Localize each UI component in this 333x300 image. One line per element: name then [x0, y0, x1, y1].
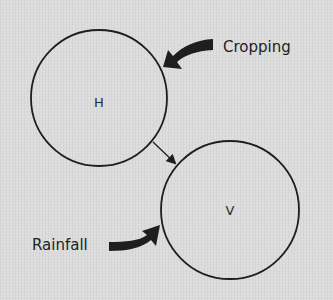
rainfall-arrow-icon: [109, 225, 160, 251]
node-h: H: [31, 30, 167, 166]
rainfall-label: Rainfall: [32, 236, 88, 254]
node-v: V: [161, 141, 299, 279]
diagram-canvas: H V Cropping Rainfall: [0, 0, 333, 300]
rainfall-influence: Rainfall: [32, 225, 160, 254]
cropping-label: Cropping: [223, 38, 291, 56]
edge-h-to-v-arrow: [153, 142, 175, 163]
node-h-label: H: [94, 95, 104, 110]
cropping-arrow-icon: [163, 39, 213, 69]
node-v-label: V: [226, 203, 235, 218]
cropping-influence: Cropping: [163, 38, 291, 69]
causal-diagram: H V Cropping Rainfall: [0, 0, 333, 300]
